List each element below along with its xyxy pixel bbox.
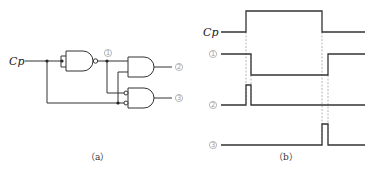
diagram-canvas: Cp 1 2 — [0, 0, 375, 176]
inversion-bubble — [124, 101, 128, 105]
junction-dot — [116, 101, 119, 104]
node-3-marker: 3 — [175, 94, 182, 102]
svg-text:2: 2 — [177, 63, 181, 71]
svg-text:1: 1 — [106, 49, 110, 57]
inversion-bubble — [124, 91, 128, 95]
signal-2-waveform — [221, 85, 365, 105]
signal-1-label: 1 — [209, 50, 216, 58]
node1-to-gate3-wire — [107, 61, 124, 93]
cp-waveform — [221, 11, 365, 32]
node-2-marker: 2 — [175, 63, 182, 71]
caption-b: （b） — [274, 152, 298, 162]
and-gate-3 — [128, 88, 154, 108]
svg-text:3: 3 — [177, 94, 181, 102]
signal-3-label: 3 — [209, 141, 216, 149]
nand-gate-1 — [66, 51, 93, 71]
svg-text:1: 1 — [211, 50, 215, 58]
and-gate-2 — [128, 57, 154, 77]
caption-a: （a） — [86, 152, 109, 162]
signal-3-waveform — [221, 124, 365, 145]
timing-diagram: Cp 1 2 3 （b） — [203, 11, 365, 162]
signal-2-label: 2 — [209, 101, 216, 109]
svg-text:3: 3 — [211, 141, 215, 149]
inversion-bubble — [93, 59, 97, 63]
node-1-marker: 1 — [104, 49, 111, 57]
circuit-diagram: Cp 1 2 — [9, 49, 183, 162]
signal-1-waveform — [221, 54, 365, 75]
cp-signal-label: Cp — [203, 26, 218, 39]
cp-input-label: Cp — [9, 55, 24, 68]
svg-text:2: 2 — [211, 101, 215, 109]
